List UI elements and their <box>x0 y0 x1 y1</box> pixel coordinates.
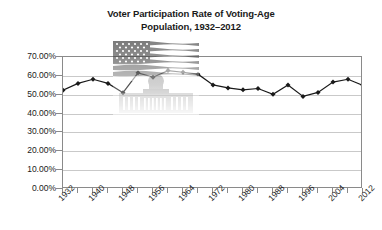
data-point-marker <box>181 70 186 75</box>
x-axis-tick-mark <box>137 188 138 193</box>
x-axis: 1932194019481956196419721980198819962004… <box>0 0 382 40</box>
y-axis-tick-label: 60.00% <box>0 70 56 80</box>
x-axis-tick-mark <box>227 188 228 193</box>
y-axis-tick-label: 0.00% <box>0 183 56 193</box>
data-point-marker <box>361 83 363 88</box>
x-axis-tick-mark <box>77 188 78 193</box>
data-point-marker <box>226 85 231 90</box>
y-axis-tick-label: 10.00% <box>0 164 56 174</box>
y-axis-tick-label: 50.00% <box>0 89 56 99</box>
data-point-marker <box>62 88 66 93</box>
data-point-marker <box>151 75 156 80</box>
data-point-marker <box>91 77 96 82</box>
x-axis-tick-mark <box>347 188 348 193</box>
y-axis-tick-label: 70.00% <box>0 51 56 61</box>
chart-figure: Voter Participation Rate of Voting-Age P… <box>0 0 382 230</box>
data-point-marker <box>76 81 81 86</box>
x-axis-tick-mark <box>317 188 318 193</box>
plot-area <box>62 56 362 188</box>
y-axis-tick-label: 20.00% <box>0 145 56 155</box>
x-axis-tick-mark <box>107 188 108 193</box>
data-point-marker <box>256 86 261 91</box>
data-point-marker <box>346 77 351 82</box>
data-point-marker <box>166 68 171 73</box>
y-axis: 70.00%60.00%50.00%40.00%30.00%20.00%10.0… <box>0 56 56 188</box>
data-point-marker <box>241 87 246 92</box>
x-axis-tick-mark <box>287 188 288 193</box>
y-axis-tick-label: 30.00% <box>0 126 56 136</box>
y-axis-tick-label: 40.00% <box>0 108 56 118</box>
x-axis-tick-mark <box>167 188 168 193</box>
x-axis-tick-mark <box>257 188 258 193</box>
x-axis-tick-mark <box>197 188 198 193</box>
series-line-chart <box>63 57 362 188</box>
